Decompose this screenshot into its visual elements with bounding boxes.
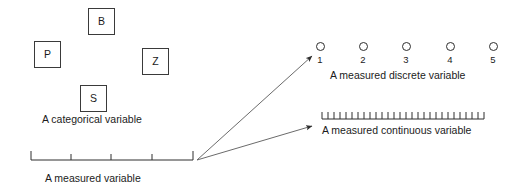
continuous-variable-ruler	[0, 0, 507, 189]
continuous-variable-caption: A measured continuous variable	[322, 125, 471, 136]
variable-types-diagram: PBZS A categorical variable A measured v…	[0, 0, 507, 189]
